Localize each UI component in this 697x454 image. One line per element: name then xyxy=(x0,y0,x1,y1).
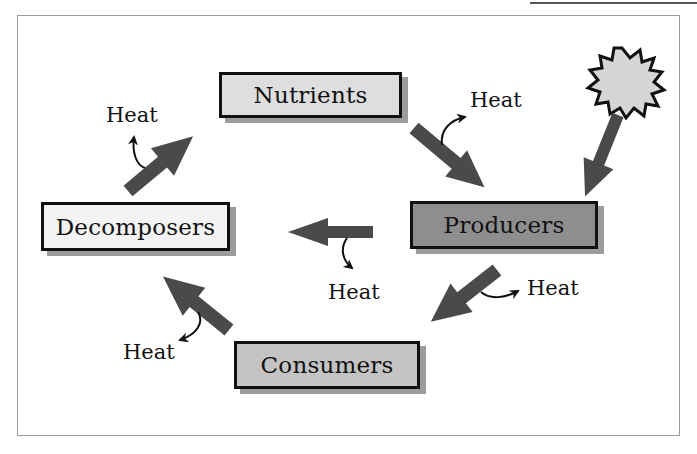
arrow-decomposers-to-nutrients xyxy=(116,123,204,205)
heat-label: Heat xyxy=(328,280,380,304)
heat-curl-icon xyxy=(481,291,518,297)
heat-curl-icon xyxy=(133,137,145,168)
heat-label: Heat xyxy=(527,276,579,300)
node-nutrients: Nutrients xyxy=(219,72,402,118)
arrow-nutrients-to-producers xyxy=(403,115,495,200)
node-decomposers: Decomposers xyxy=(41,202,230,251)
node-consumers: Consumers xyxy=(234,341,420,389)
heat-label: Heat xyxy=(106,103,158,127)
node-producers: Producers xyxy=(410,201,598,249)
heat-curl-icon xyxy=(442,117,465,145)
heat-label: Heat xyxy=(123,340,175,364)
sun-starburst-icon xyxy=(588,48,664,118)
arrow-producers-to-consumers xyxy=(420,256,508,336)
arrow-producers-to-decomposers xyxy=(288,218,373,246)
heat-label: Heat xyxy=(470,88,522,112)
arrow-sun-to-producers xyxy=(570,109,633,203)
heat-curl-icon xyxy=(180,312,200,340)
heat-curl-icon xyxy=(343,238,352,268)
